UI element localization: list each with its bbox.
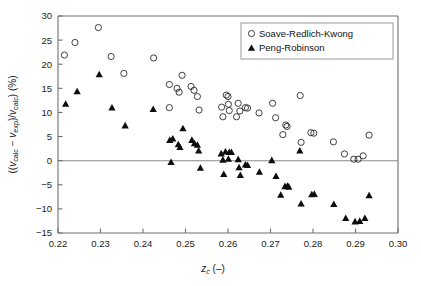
chart-canvas: 302520151050−5−10−15 0.220.230.240.250.2…: [0, 0, 421, 286]
scatter-chart-figure: 302520151050−5−10−15 0.220.230.240.250.2…: [0, 0, 421, 286]
x-tick-label: 0.28: [304, 238, 323, 249]
legend-entry-soave-redlich-kwong[interactable]: Soave-Redlich-Kwong: [248, 28, 353, 39]
x-tick-label: 0.24: [134, 238, 153, 249]
chart-legend[interactable]: Soave-Redlich-Kwong Peng-Robinson: [241, 23, 393, 59]
x-tick-label: 0.30: [389, 238, 408, 249]
x-axis-title-unit: (–): [210, 263, 225, 274]
x-tick-label: 0.27: [261, 238, 280, 249]
y-axis-title-s1: calc: [11, 149, 20, 162]
x-tick-label: 0.22: [49, 238, 68, 249]
y-tick-label: −5: [41, 179, 52, 190]
y-tick-label: −10: [36, 203, 52, 214]
x-tick-label: 0.26: [219, 238, 238, 249]
x-tick-label: 0.23: [91, 238, 110, 249]
legend-label-pr: Peng-Robinson: [259, 42, 325, 53]
y-tick-label: 15: [41, 83, 52, 94]
y-axis-title-p4: ) (%): [7, 75, 18, 97]
y-tick-label: 30: [41, 10, 52, 21]
y-tick-label: 10: [41, 107, 52, 118]
y-axis-title-p2: −: [7, 138, 18, 149]
legend-entry-peng-robinson[interactable]: Peng-Robinson: [248, 42, 325, 53]
x-tick-label: 0.29: [346, 238, 365, 249]
legend-label-srk: Soave-Redlich-Kwong: [259, 28, 353, 39]
x-tick-label: 0.25: [176, 238, 195, 249]
y-axis-title-s3: calc: [11, 97, 20, 110]
y-tick-label: 0: [47, 155, 52, 166]
y-tick-label: 20: [41, 59, 52, 70]
y-tick-label: 25: [41, 35, 52, 46]
y-axis-title-s2: exp: [11, 121, 20, 133]
y-tick-label: 5: [47, 131, 52, 142]
y-tick-label: −15: [36, 227, 52, 238]
